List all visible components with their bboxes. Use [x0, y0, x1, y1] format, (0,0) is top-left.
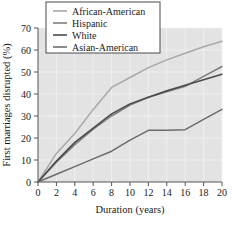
x-tick-label: 2: [54, 187, 59, 198]
y-tick-label: 20: [21, 133, 31, 144]
y-tick-label: 50: [21, 67, 31, 78]
y-axis-title: First marriages disrupted (%): [1, 43, 13, 167]
y-tick-label: 70: [21, 23, 31, 34]
x-tick-label: 0: [36, 187, 41, 198]
chart-container: 02468101214161820 010203040506070 Durati…: [0, 0, 234, 225]
y-tick-label: 0: [26, 177, 31, 188]
legend-label-3: Asian-American: [72, 42, 138, 53]
legend-label-2: White: [72, 30, 97, 41]
x-axis-title: Duration (years): [95, 204, 165, 216]
x-tick-label: 16: [180, 187, 190, 198]
line-chart: 02468101214161820 010203040506070 Durati…: [0, 0, 234, 225]
y-tick-label: 40: [21, 89, 31, 100]
x-tick-label: 6: [91, 187, 96, 198]
x-tick-label: 10: [125, 187, 135, 198]
y-tick-label: 30: [21, 111, 31, 122]
x-tick-label: 20: [217, 187, 227, 198]
x-tick-label: 4: [72, 187, 77, 198]
legend-label-0: African-American: [72, 6, 145, 17]
x-tick-label: 18: [199, 187, 209, 198]
x-tick-label: 8: [109, 187, 114, 198]
x-tick-label: 12: [143, 187, 153, 198]
y-tick-label: 10: [21, 155, 31, 166]
chart-legend: African-AmericanHispanicWhiteAsian-Ameri…: [46, 2, 160, 53]
legend-label-1: Hispanic: [72, 18, 108, 29]
y-tick-label: 60: [21, 45, 31, 56]
x-tick-label: 14: [162, 187, 172, 198]
